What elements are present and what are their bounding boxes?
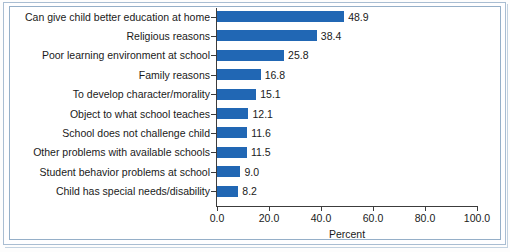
x-axis-tick (477, 206, 478, 211)
bar-value-label: 38.4 (321, 31, 341, 42)
bar (217, 127, 247, 138)
x-axis-tick-label: 20.0 (247, 212, 291, 224)
y-axis-tick (211, 17, 216, 18)
x-axis-tick-label: 80.0 (403, 212, 447, 224)
bar-value-label: 48.9 (348, 12, 368, 23)
x-axis-tick-label: 60.0 (351, 212, 395, 224)
bar-value-label: 25.8 (288, 50, 308, 61)
bar (217, 50, 284, 61)
category-label: Family reasons (10, 70, 210, 81)
x-axis-tick (373, 206, 374, 211)
bar (217, 166, 240, 177)
bar (217, 69, 261, 80)
x-axis-tick-label: 40.0 (299, 212, 343, 224)
bar-value-label: 15.1 (260, 89, 280, 100)
category-label: Other problems with available schools (10, 147, 210, 158)
bar-value-label: 9.0 (244, 167, 259, 178)
category-label: To develop character/morality (10, 89, 210, 100)
bar (217, 30, 317, 41)
category-label: Object to what school teaches (10, 109, 210, 120)
x-axis-tick (321, 206, 322, 211)
x-axis-title: Percent (216, 228, 478, 240)
y-axis-tick (211, 191, 216, 192)
bar-value-label: 12.1 (252, 109, 272, 120)
bar (217, 186, 238, 197)
y-axis-tick (211, 36, 216, 37)
y-axis-tick (211, 172, 216, 173)
bar (217, 147, 247, 158)
category-label: Student behavior problems at school (10, 167, 210, 178)
bar (217, 89, 256, 100)
category-label: Religious reasons (10, 31, 210, 42)
bar-value-label: 11.6 (251, 128, 271, 139)
y-axis-tick (211, 114, 216, 115)
y-axis-tick (211, 75, 216, 76)
y-axis-tick (211, 55, 216, 56)
x-axis-tick-label: 100.0 (455, 212, 499, 224)
y-axis-tick (211, 152, 216, 153)
chart-screenshot: Percent Can give child better education … (0, 0, 510, 252)
category-label: Can give child better education at home (10, 12, 210, 23)
category-label: School does not challenge child (10, 128, 210, 139)
bar-value-label: 11.5 (251, 147, 271, 158)
bar (217, 108, 248, 119)
bar (217, 11, 344, 22)
x-axis-tick (425, 206, 426, 211)
x-axis-tick-label: 0.0 (195, 212, 239, 224)
y-axis-tick (211, 94, 216, 95)
x-axis-tick (269, 206, 270, 211)
y-axis-tick (211, 133, 216, 134)
x-axis-tick (217, 206, 218, 211)
category-label: Child has special needs/disability (10, 186, 210, 197)
bar-value-label: 8.2 (242, 186, 257, 197)
bar-value-label: 16.8 (265, 70, 285, 81)
category-label: Poor learning environment at school (10, 50, 210, 61)
x-axis-line (216, 206, 478, 207)
bar-chart-plot: Percent Can give child better education … (0, 0, 510, 252)
